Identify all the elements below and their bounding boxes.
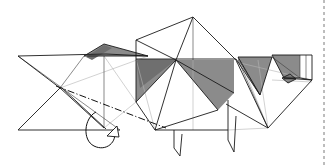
page-background bbox=[0, 0, 330, 167]
origami-diagram-figure bbox=[0, 0, 330, 167]
origami-canvas bbox=[0, 0, 330, 167]
